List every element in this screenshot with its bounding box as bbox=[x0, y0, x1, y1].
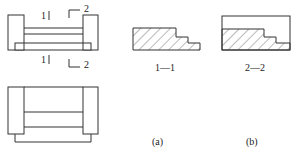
section-1-1-profile bbox=[133, 28, 200, 50]
elevation-view-bottom bbox=[8, 87, 98, 142]
section-1-label-bottom: 1 bbox=[41, 54, 46, 65]
section-2-label-top: 2 bbox=[84, 3, 89, 14]
section-2-mark-bottom bbox=[69, 59, 80, 67]
section-2-mark-top bbox=[69, 10, 80, 18]
left-column bbox=[8, 87, 24, 134]
base-plate bbox=[15, 43, 91, 50]
caption-a: (a) bbox=[152, 136, 163, 148]
diagram-canvas: 1 1 2 2 1—1 2—2 (a) (b) bbox=[0, 0, 292, 156]
section-1-1 bbox=[133, 28, 200, 50]
section-1-label-top: 1 bbox=[41, 10, 46, 21]
section-2-2-label: 2—2 bbox=[245, 62, 265, 73]
right-column bbox=[83, 87, 98, 134]
base-outline bbox=[15, 134, 91, 142]
section-1-1-label: 1—1 bbox=[155, 62, 175, 73]
section-2-2 bbox=[222, 16, 290, 50]
caption-b: (b) bbox=[246, 136, 258, 148]
section-2-label-bottom: 2 bbox=[84, 59, 89, 70]
